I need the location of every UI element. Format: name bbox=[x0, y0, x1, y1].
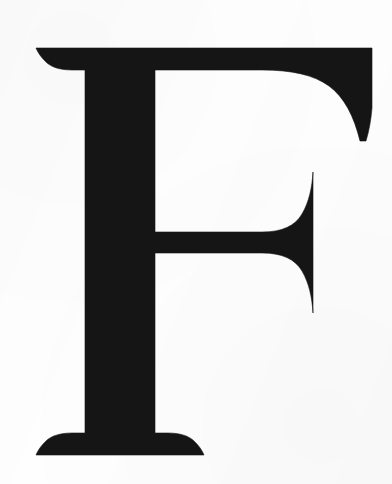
letter-f-outline-group bbox=[36, 48, 372, 455]
letter-f-glyph bbox=[0, 0, 392, 484]
letter-f-path bbox=[36, 48, 372, 455]
scanned-letter-canvas: Large black uppercase serif letter F on … bbox=[0, 0, 392, 484]
